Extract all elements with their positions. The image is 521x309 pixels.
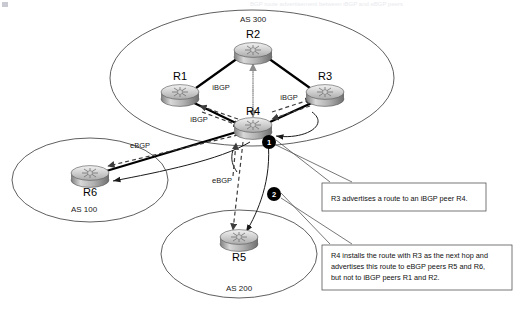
curve-r4-to-r5 — [246, 140, 269, 232]
router-label-r4: R4 — [246, 105, 260, 117]
advert-r4-to-r6 — [108, 135, 238, 166]
callout-1-line-1: R3 advertises a route to an iBGP peer R4… — [331, 194, 468, 203]
advert-r5-to-r4 — [233, 143, 236, 176]
router-r3[interactable] — [306, 85, 344, 107]
step-badge-2-number: 2 — [272, 190, 276, 199]
callout-2-line-3: but not to iBGP peers R1 and R2. — [331, 273, 440, 282]
link-r2-r3 — [268, 58, 310, 88]
router-label-r5: R5 — [232, 251, 246, 263]
edge-label-ibgp-r1-r4: iBGP — [190, 115, 208, 124]
as-label-as200: AS 200 — [226, 284, 253, 293]
advert-r4-to-r5 — [233, 142, 243, 230]
router-label-r3: R3 — [318, 70, 332, 82]
callout-box-1: R3 advertises a route to an iBGP peer R4… — [322, 183, 486, 211]
as-label-as300: AS 300 — [240, 15, 267, 24]
callout-box-2: R4 installs the route with R3 as the nex… — [322, 245, 512, 290]
as-label-as100: AS 100 — [71, 205, 98, 214]
callout-2-line-2: advertises this route to eBGP peers R5 a… — [331, 262, 485, 271]
edge-label-ebgp-r4-r5: eBGP — [212, 176, 232, 185]
leader-callout-1b — [276, 145, 352, 182]
step-badge-1: 1 — [262, 135, 276, 149]
router-r2[interactable] — [234, 43, 272, 65]
edge-label-ebgp-r4-r6: eBGP — [130, 141, 150, 150]
callout-2-line-1: R4 installs the route with R3 as the nex… — [331, 251, 488, 260]
network-diagram: BGP route advertisement between iBGP and… — [0, 0, 521, 309]
router-label-r2: R2 — [246, 28, 260, 40]
diagram-canvas: BGP route advertisement between iBGP and… — [0, 0, 521, 309]
step-badge-1-number: 1 — [267, 138, 271, 147]
router-r1[interactable] — [161, 85, 199, 107]
router-r5[interactable] — [220, 230, 258, 252]
page-corner-mark — [2, 2, 8, 7]
page-header-faint: BGP route advertisement between iBGP and… — [250, 1, 403, 7]
router-r6[interactable] — [71, 166, 109, 188]
leader-callout-1 — [276, 140, 330, 182]
link-r4-r6 — [103, 131, 240, 172]
router-label-r6: R6 — [83, 186, 97, 198]
edge-label-ibgp-r1-r2: iBGP — [212, 83, 230, 92]
router-label-r1: R1 — [173, 70, 187, 82]
edge-label-ibgp-r3-r4: iBGP — [280, 93, 298, 102]
step-badge-2: 2 — [267, 187, 281, 201]
